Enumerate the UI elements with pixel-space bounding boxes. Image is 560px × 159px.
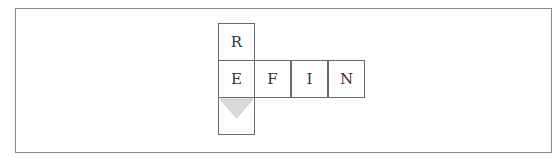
cell-e: E [218,60,255,98]
cell-n: N [328,60,365,98]
down-triangle-icon [219,98,254,134]
cell-letter: N [340,70,353,88]
cell-i: I [291,60,328,98]
cell-letter: F [267,70,277,88]
cell-f: F [254,60,291,98]
cell-letter: E [231,70,242,88]
cell-letter: I [307,70,313,88]
cell-letter: R [231,33,242,51]
cell-blank-with-marker [218,97,255,135]
cell-r: R [218,23,255,61]
